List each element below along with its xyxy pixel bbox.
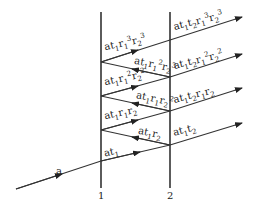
surface-2-label: 2 [167, 190, 173, 201]
surface-1-label: 1 [98, 190, 104, 201]
incident-label: a [56, 166, 62, 176]
reflection-diagram [0, 0, 272, 210]
label-between-6: at1 [103, 146, 119, 159]
